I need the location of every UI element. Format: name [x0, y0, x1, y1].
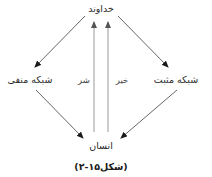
arrow-god-to-negative-network	[35, 16, 85, 67]
edge-label-evil: شر	[78, 76, 90, 85]
node-negative-network: شبکه منفی	[8, 75, 53, 85]
arrow-god-to-positive-network	[118, 16, 168, 67]
diagram-figure: خداوند شبکه منفی شبکه مثبت شر خیر انسان …	[0, 0, 212, 177]
node-positive-network: شبکه مثبت	[154, 75, 198, 85]
node-god: خداوند	[88, 4, 114, 14]
figure-caption: (شکل۱۵-۲)	[74, 162, 127, 172]
arrow-negative-network-to-human	[36, 90, 83, 138]
edge-label-good: خیر	[116, 76, 129, 85]
arrow-positive-network-to-human	[121, 90, 177, 138]
node-human: انسان	[89, 141, 113, 151]
